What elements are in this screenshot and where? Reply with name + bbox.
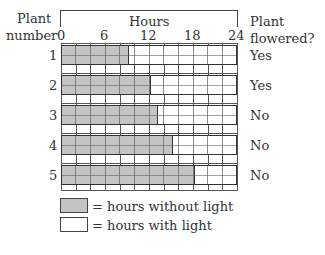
bar-plant-3 (61, 105, 237, 125)
grid-hline (61, 163, 237, 164)
tick-18: 18 (184, 28, 201, 43)
bar-plant-4 (61, 135, 237, 155)
row-label-plant-1: 1 (49, 48, 57, 63)
bar-plant-5 (61, 165, 237, 185)
bar-midline (62, 175, 236, 176)
tick-12: 12 (140, 28, 157, 43)
tick-0: 0 (57, 28, 65, 43)
grid-hline (61, 133, 237, 134)
legend-dark-swatch (60, 198, 88, 213)
bar-midline (62, 145, 236, 146)
row-label-plant-5: 5 (49, 168, 57, 183)
plant2-label: Plant (250, 14, 284, 29)
hours-title: Hours (129, 14, 169, 29)
row-label-plant-2: 2 (49, 78, 57, 93)
grid-hline (61, 43, 237, 44)
bar-plant-1 (61, 45, 237, 65)
legend-light-swatch (60, 217, 88, 232)
row-label-plant-4: 4 (49, 138, 57, 153)
flowered-answer-plant-4: No (250, 138, 269, 153)
tick-6: 6 (100, 28, 108, 43)
flowered-answer-plant-3: No (250, 108, 269, 123)
flowered-answer-plant-1: Yes (250, 48, 272, 63)
legend-light-label: = hours with light (92, 218, 212, 233)
grid-hline (61, 190, 237, 191)
tick-24: 24 (228, 28, 245, 43)
flowered-label: flowered? (250, 31, 315, 46)
flowered-answer-plant-2: Yes (250, 78, 272, 93)
bar-midline (62, 55, 236, 56)
bar-midline (62, 85, 236, 86)
bar-plant-2 (61, 75, 237, 95)
grid-vline (237, 43, 238, 191)
flowered-answer-plant-5: No (250, 168, 269, 183)
number-label: number (6, 28, 57, 43)
plant-label: Plant (17, 11, 51, 26)
bar-midline (62, 115, 236, 116)
legend-dark-label: = hours without light (92, 199, 233, 214)
chart-grid (61, 43, 237, 191)
row-label-plant-3: 3 (49, 108, 57, 123)
grid-hline (61, 103, 237, 104)
grid-hline (61, 73, 237, 74)
